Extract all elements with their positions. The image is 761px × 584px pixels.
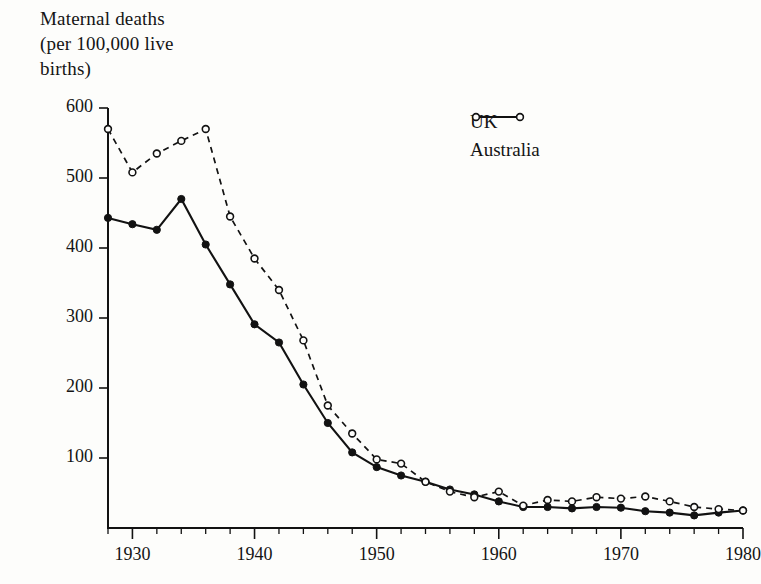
data-point-uk [251,321,258,328]
maternal-deaths-line-chart: Maternal deaths (per 100,000 live births… [0,0,761,584]
data-point-australia [691,504,698,511]
data-point-uk [666,509,673,516]
data-point-uk [227,281,234,288]
data-point-australia [666,498,673,505]
data-point-australia [276,287,283,294]
data-point-uk [495,498,502,505]
data-point-australia [349,430,356,437]
data-point-uk [373,464,380,471]
data-point-australia [740,507,747,514]
x-tick-label: 1970 [591,544,651,565]
y-tick-label: 100 [45,446,93,467]
data-point-uk [275,339,282,346]
legend-item-australia: Australia [470,136,540,164]
y-tick-label: 300 [45,306,93,327]
data-point-uk [398,472,405,479]
data-point-australia [373,456,380,463]
data-point-uk [349,449,356,456]
data-point-australia [447,488,454,495]
data-point-australia [569,498,576,505]
y-tick-label: 600 [45,96,93,117]
series-line-australia [108,129,743,511]
data-point-australia [544,497,551,504]
data-point-australia [471,494,478,501]
data-point-australia [398,460,405,467]
data-point-uk [691,512,698,519]
data-point-australia [202,126,209,133]
data-point-uk [544,503,551,510]
data-point-uk [642,508,649,515]
data-point-australia [495,488,502,495]
data-point-australia [300,337,307,344]
y-tick-label: 500 [45,166,93,187]
data-point-australia [324,402,331,409]
axis-spine [108,108,743,528]
data-point-australia [251,255,258,262]
y-tick-label: 200 [45,376,93,397]
data-point-australia [178,138,185,145]
data-point-uk [202,241,209,248]
data-point-australia [642,493,649,500]
data-point-uk [104,214,111,221]
x-tick-label: 1930 [102,544,162,565]
data-point-australia [715,506,722,513]
x-tick-label: 1960 [469,544,529,565]
chart-canvas [0,0,761,584]
data-point-uk [178,195,185,202]
legend-label-australia: Australia [470,141,540,159]
x-tick-label: 1940 [225,544,285,565]
data-point-uk [153,226,160,233]
data-point-australia [618,495,625,502]
chart-legend: UK Australia [470,108,540,164]
data-point-australia [227,213,234,220]
data-point-australia [105,126,112,133]
data-point-uk [300,381,307,388]
y-tick-label: 400 [45,236,93,257]
x-tick-label: 1950 [347,544,407,565]
data-point-uk [617,504,624,511]
data-point-australia [593,494,600,501]
data-point-australia [422,478,429,485]
data-point-uk [129,221,136,228]
x-tick-label: 1980 [713,544,761,565]
data-point-australia [153,150,160,157]
data-point-australia [520,502,527,509]
legend-sample-australia [470,108,526,126]
data-point-uk [593,503,600,510]
data-point-uk [324,419,331,426]
data-point-australia [129,169,136,176]
data-point-uk [568,505,575,512]
